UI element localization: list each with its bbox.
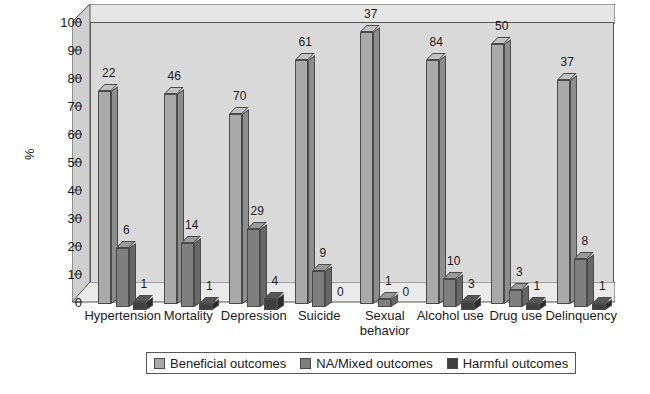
- bar-front-face: [360, 32, 373, 304]
- x-axis-category-label: Hypertension: [84, 308, 161, 323]
- x-axis-category-label: Sexual behavior: [360, 308, 410, 338]
- bar-group: 3710: [352, 22, 418, 304]
- bar-value-label: 70: [233, 90, 246, 102]
- bar-1: [312, 261, 325, 307]
- bar-front-face: [426, 60, 439, 304]
- bar-value-label: 1: [206, 280, 213, 292]
- legend-label: NA/Mixed outcomes: [316, 357, 432, 370]
- bar-front-face: [557, 80, 570, 304]
- bar-value-label: 37: [364, 8, 377, 20]
- bar-front-face: [295, 60, 308, 304]
- bar-group: 6190: [287, 22, 353, 304]
- bar-0: [229, 104, 242, 304]
- bar-front-face: [247, 229, 260, 307]
- bar-value-label: 8: [581, 235, 588, 247]
- x-axis-labels: HypertensionMortalityDepressionSuicideSe…: [90, 308, 614, 354]
- bar-value-label: 84: [430, 36, 443, 48]
- bar-group: 84103: [418, 22, 484, 304]
- bars-layer: 22614614170294619037108410350313781: [90, 22, 614, 304]
- bar-front-face: [116, 248, 129, 307]
- bar-1: [181, 233, 194, 307]
- x-axis-category-label: Mortality: [164, 308, 213, 323]
- bar-front-face: [98, 91, 111, 304]
- bar-1: [443, 269, 456, 307]
- bar-side-face: [439, 56, 446, 304]
- bar-front-face: [312, 271, 325, 307]
- y-axis-tick-mark: [74, 162, 82, 163]
- bar-value-label: 46: [168, 70, 181, 82]
- y-axis-tick-mark: [74, 218, 82, 219]
- bar-value-label: 0: [402, 286, 409, 298]
- bar-0: [557, 70, 570, 304]
- bar-value-label: 22: [102, 67, 115, 79]
- plot-box-top-face: [72, 4, 615, 24]
- bar-chart-figure: % 0102030405060708090100 226146141702946…: [0, 0, 650, 394]
- bar-value-label: 1: [599, 280, 606, 292]
- y-axis-tick-mark: [74, 302, 82, 303]
- bar-front-face: [509, 290, 522, 307]
- bar-value-label: 14: [185, 219, 198, 231]
- legend-label: Harmful outcomes: [463, 357, 568, 370]
- y-axis-tick-mark: [74, 274, 82, 275]
- bar-2: [264, 289, 277, 310]
- y-axis-tick-mark: [74, 134, 82, 135]
- x-axis-category-label: Suicide: [298, 308, 341, 323]
- bar-0: [426, 50, 439, 304]
- x-axis-category-label: Drug use: [489, 308, 542, 323]
- bar-value-label: 50: [495, 20, 508, 32]
- bar-1: [574, 249, 587, 307]
- bar-group: 3781: [549, 22, 615, 304]
- bar-group: 5031: [483, 22, 549, 304]
- legend-item-0: Beneficial outcomes: [154, 357, 286, 370]
- bar-front-face: [181, 243, 194, 307]
- bar-value-label: 1: [385, 275, 392, 287]
- legend-label: Beneficial outcomes: [170, 357, 286, 370]
- bar-value-label: 4: [271, 275, 278, 287]
- bar-value-label: 6: [123, 224, 130, 236]
- bar-value-label: 37: [561, 56, 574, 68]
- bar-0: [98, 81, 111, 304]
- bar-group: 2261: [90, 22, 156, 304]
- legend-item-2: Harmful outcomes: [447, 357, 568, 370]
- bar-value-label: 61: [299, 36, 312, 48]
- bar-front-face: [378, 299, 391, 307]
- y-axis: % 0102030405060708090100: [0, 0, 90, 394]
- y-axis-title: %: [22, 148, 37, 160]
- bar-0: [360, 22, 373, 304]
- bar-group: 46141: [156, 22, 222, 304]
- legend-swatch-icon: [154, 358, 165, 369]
- legend-swatch-icon: [300, 358, 311, 369]
- x-axis-category-label: Alcohol use: [417, 308, 484, 323]
- x-axis-category-label: Delinquency: [545, 308, 617, 323]
- y-axis-tick-mark: [74, 106, 82, 107]
- x-axis-category-label: Depression: [221, 308, 287, 323]
- y-axis-tick-mark: [74, 78, 82, 79]
- bar-1: [378, 289, 391, 307]
- bar-value-label: 1: [533, 280, 540, 292]
- bar-0: [295, 50, 308, 304]
- bar-0: [491, 34, 504, 304]
- bar-side-face: [504, 39, 511, 304]
- bar-value-label: 0: [337, 286, 344, 298]
- bar-1: [116, 238, 129, 307]
- bar-front-face: [574, 259, 587, 307]
- bar-1: [509, 280, 522, 307]
- bar-0: [164, 84, 177, 304]
- bar-value-label: 9: [319, 247, 326, 259]
- bar-front-face: [491, 44, 504, 304]
- legend-item-1: NA/Mixed outcomes: [300, 357, 432, 370]
- y-axis-tick-mark: [74, 190, 82, 191]
- bar-value-label: 3: [516, 266, 523, 278]
- bar-front-face: [443, 279, 456, 307]
- bar-value-label: 1: [140, 278, 147, 290]
- bar-side-face: [373, 28, 380, 304]
- bar-front-face: [164, 94, 177, 304]
- y-axis-tick-mark: [74, 246, 82, 247]
- y-axis-tick-mark: [74, 22, 82, 23]
- bar-front-face: [229, 114, 242, 304]
- bar-value-label: 3: [468, 278, 475, 290]
- legend-swatch-icon: [447, 358, 458, 369]
- chart-legend: Beneficial outcomesNA/Mixed outcomesHarm…: [146, 352, 576, 374]
- y-axis-tick-mark: [74, 50, 82, 51]
- bar-1: [247, 219, 260, 307]
